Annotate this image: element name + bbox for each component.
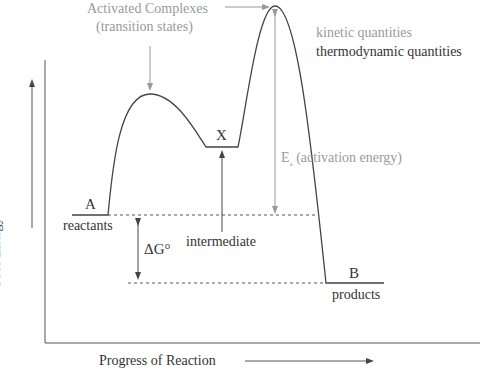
x-axis-label: Progress of Reaction <box>99 354 216 368</box>
activated-complexes-label: Activated Complexes <box>87 2 208 16</box>
product-symbol: B <box>349 266 359 281</box>
activation-energy-label: Ea (activation energy) <box>281 151 402 168</box>
y-axis-label: Free Energy <box>0 217 3 286</box>
intermediate-label: intermediate <box>186 235 256 249</box>
product-label: products <box>332 288 380 302</box>
reactant-symbol: A <box>85 197 96 212</box>
axes <box>45 60 480 343</box>
legend-kinetic: kinetic quantities <box>316 26 412 40</box>
reactant-label: reactants <box>63 219 113 233</box>
intermediate-symbol: X <box>216 128 227 143</box>
transition-states-label: (transition states) <box>96 20 193 34</box>
delta-g-label: ΔG° <box>144 242 170 257</box>
legend-thermodynamic: thermodynamic quantities <box>316 45 462 59</box>
